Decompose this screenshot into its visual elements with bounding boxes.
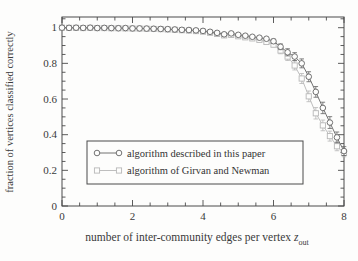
data-point-marker bbox=[102, 25, 108, 31]
y-axis-label: fraction of vertices classified correctl… bbox=[4, 31, 15, 193]
data-point-marker bbox=[299, 61, 305, 67]
series-square bbox=[59, 25, 346, 157]
x-tick-label: 0 bbox=[59, 210, 65, 222]
data-point-marker bbox=[235, 32, 241, 38]
data-point-marker bbox=[151, 26, 157, 32]
data-point-marker bbox=[87, 25, 93, 31]
series-line bbox=[62, 28, 344, 151]
legend-sample-marker bbox=[94, 168, 99, 173]
data-point-marker bbox=[165, 26, 171, 32]
series-line bbox=[62, 28, 344, 153]
data-point-marker bbox=[250, 34, 256, 40]
chart-svg: 0246800.20.40.60.81 fraction of vertices… bbox=[0, 0, 358, 261]
data-point-marker bbox=[271, 38, 277, 44]
legend-sample-marker bbox=[116, 150, 122, 156]
data-point-marker bbox=[94, 25, 100, 31]
x-tick-label: 4 bbox=[200, 210, 206, 222]
legend-label-this-paper: algorithm described in this paper bbox=[127, 148, 266, 159]
data-point-marker bbox=[306, 94, 311, 99]
data-point-marker bbox=[257, 35, 263, 41]
data-point-marker bbox=[193, 28, 199, 34]
legend-sample-marker bbox=[116, 168, 121, 173]
y-tick-label: 1 bbox=[52, 21, 58, 33]
legend-sample-marker bbox=[94, 150, 100, 156]
data-point-marker bbox=[278, 44, 284, 50]
data-point-marker bbox=[200, 28, 206, 34]
legend: algorithm described in this paper algori… bbox=[87, 141, 303, 184]
legend-label-girvan-newman: algorithm of Girvan and Newman bbox=[127, 165, 270, 176]
y-tick-label: 0 bbox=[52, 200, 58, 212]
data-point-marker bbox=[292, 54, 298, 60]
data-point-marker bbox=[313, 111, 318, 116]
data-point-marker bbox=[228, 31, 234, 37]
data-point-marker bbox=[292, 63, 297, 68]
data-point-marker bbox=[137, 26, 143, 32]
y-tick-label: 0.4 bbox=[43, 128, 57, 140]
data-point-marker bbox=[172, 27, 178, 33]
data-point-marker bbox=[214, 30, 220, 36]
data-point-marker bbox=[116, 25, 122, 31]
x-tick-label: 6 bbox=[271, 210, 277, 222]
data-point-marker bbox=[123, 25, 129, 31]
y-tick-label: 0.6 bbox=[43, 93, 57, 105]
data-point-marker bbox=[327, 120, 333, 126]
data-point-marker bbox=[109, 25, 115, 31]
data-point-marker bbox=[264, 36, 270, 42]
y-tick-label: 0.8 bbox=[43, 57, 57, 69]
data-point-marker bbox=[221, 31, 227, 37]
data-point-marker bbox=[179, 27, 185, 33]
data-point-marker bbox=[313, 89, 319, 95]
y-tick-label: 0.2 bbox=[43, 164, 57, 176]
data-point-marker bbox=[130, 26, 136, 32]
data-point-marker bbox=[341, 148, 347, 154]
data-point-marker bbox=[66, 25, 72, 31]
plot-area: 0246800.20.40.60.81 bbox=[43, 17, 347, 222]
series-circle bbox=[59, 25, 347, 156]
data-point-marker bbox=[299, 76, 304, 81]
data-point-marker bbox=[334, 135, 340, 141]
data-point-marker bbox=[207, 29, 213, 35]
scientific-figure: 0246800.20.40.60.81 fraction of vertices… bbox=[0, 0, 358, 261]
data-point-marker bbox=[285, 50, 291, 56]
x-axis-label-subscript: out bbox=[298, 238, 309, 247]
data-point-marker bbox=[320, 123, 325, 128]
data-point-marker bbox=[73, 25, 79, 31]
x-tick-label: 8 bbox=[341, 210, 347, 222]
data-point-marker bbox=[158, 26, 164, 32]
data-point-marker bbox=[334, 144, 339, 149]
data-point-marker bbox=[243, 33, 249, 39]
data-point-marker bbox=[320, 105, 326, 111]
x-axis-label: number of inter-community edges per vert… bbox=[85, 231, 309, 247]
data-point-marker bbox=[59, 25, 65, 31]
data-point-marker bbox=[80, 25, 86, 31]
data-point-marker bbox=[186, 27, 192, 33]
data-point-marker bbox=[144, 26, 150, 32]
data-point-marker bbox=[327, 134, 332, 139]
x-tick-label: 2 bbox=[130, 210, 136, 222]
x-axis-label-main: number of inter-community edges per vert… bbox=[85, 231, 294, 244]
data-point-marker bbox=[306, 74, 312, 80]
